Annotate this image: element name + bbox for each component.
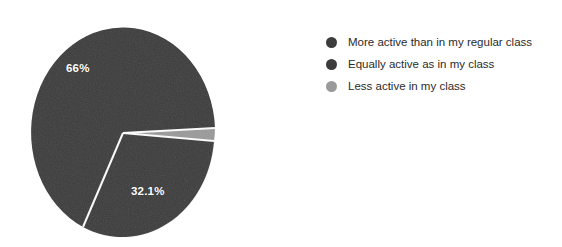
legend-swatch-less-active-icon <box>326 81 337 92</box>
legend-item-equally-active[interactable]: Equally active as in my class <box>326 53 558 75</box>
legend-label-equally-active: Equally active as in my class <box>348 58 494 71</box>
pie-chart-graphic <box>0 0 250 247</box>
pie-grain-texture <box>0 0 250 247</box>
pie-chart-figure: 66% 32.1% More active than in my regular… <box>0 0 562 247</box>
legend-item-less-active[interactable]: Less active in my class <box>326 75 558 97</box>
legend-swatch-more-active-icon <box>326 37 337 48</box>
legend-label-more-active: More active than in my regular class <box>348 36 532 49</box>
legend-item-more-active[interactable]: More active than in my regular class <box>326 31 558 53</box>
chart-legend: More active than in my regular class Equ… <box>326 31 558 97</box>
pie-slice-label-more-active: 66% <box>66 62 90 74</box>
pie-chart-area: 66% 32.1% <box>0 0 250 247</box>
pie-slice-label-equally-active: 32.1% <box>131 185 165 197</box>
legend-swatch-equally-active-icon <box>326 59 337 70</box>
legend-label-less-active: Less active in my class <box>348 80 466 93</box>
